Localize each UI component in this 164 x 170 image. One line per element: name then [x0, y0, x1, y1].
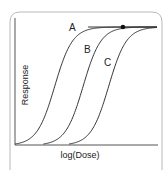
curve-c [69, 28, 157, 144]
curve-label-a: A [69, 22, 76, 33]
curve-b [43, 27, 157, 144]
chart: ABC Response log(Dose) [0, 0, 164, 170]
x-axis-label: log(Dose) [60, 150, 99, 160]
highlight-point [121, 25, 126, 30]
chart-frame [10, 12, 162, 170]
curve-label-b: B [84, 44, 91, 55]
y-axis-label: Response [20, 65, 30, 106]
curve-label-c: C [104, 57, 111, 68]
